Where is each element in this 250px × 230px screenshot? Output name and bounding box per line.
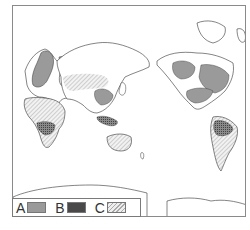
map-canvas [13,6,246,217]
arctic-islands [197,21,225,43]
legend-label-c: C [95,201,105,215]
legend-item-c: C [95,201,126,215]
legend-item-a: A [16,201,46,215]
new-zealand [141,152,144,159]
map-legend: A B C [12,198,141,217]
legend-label-a: A [16,201,25,215]
legend-swatch-c [107,202,126,213]
region-c-australia [107,134,132,151]
south-america-landmass [211,116,238,171]
north-america-landmass [157,21,246,109]
legend-item-b: B [55,201,85,215]
asia-landmass [57,42,149,125]
world-map [12,5,246,217]
greenland [237,29,246,43]
legend-label-b: B [55,201,64,215]
legend-swatch-a [27,202,46,213]
region-b-southeast-asia [97,116,117,126]
legend-swatch-b [67,202,86,213]
antarctica-east [167,198,246,217]
